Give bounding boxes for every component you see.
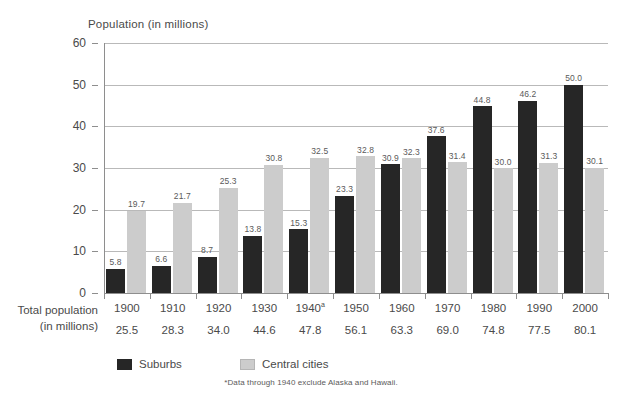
legend-label: Central cities xyxy=(262,358,328,370)
y-tick-label-0: 0 xyxy=(79,286,86,300)
total-population-2000: 80.1 xyxy=(574,324,596,336)
bar-suburbs-1990 xyxy=(518,101,537,294)
bar-suburbs-1940 xyxy=(289,229,308,293)
bar-cities-1920 xyxy=(219,188,238,293)
bar-suburbs-1980 xyxy=(473,106,492,293)
total-population-1930: 44.6 xyxy=(253,324,275,336)
x-tick xyxy=(608,293,609,299)
bar-value-label: 37.6 xyxy=(428,125,445,135)
y-tick-10 xyxy=(92,251,98,252)
x-tick xyxy=(333,293,334,299)
y-tick-label-60: 60 xyxy=(73,36,86,50)
totals-label-line1: Total population xyxy=(0,302,98,318)
bar-cities-2000 xyxy=(585,168,604,293)
bar-value-label: 13.8 xyxy=(244,224,261,234)
y-tick-label-10: 10 xyxy=(73,244,86,258)
x-tick xyxy=(287,293,288,299)
total-population-1920: 34.0 xyxy=(207,324,229,336)
bar-cities-1910 xyxy=(173,203,192,293)
x-axis-label-1970: 1970 xyxy=(435,302,461,314)
bar-value-label: 46.2 xyxy=(519,89,536,99)
total-population-1980: 74.8 xyxy=(482,324,504,336)
legend-item-central-cities: Central cities xyxy=(240,358,328,370)
x-axis-label-1960: 1960 xyxy=(389,302,415,314)
bar-groups: 5.819.76.621.78.725.313.830.815.332.523.… xyxy=(104,43,608,293)
bar-suburbs-1910 xyxy=(152,266,171,294)
x-tick xyxy=(425,293,426,299)
bar-group: 13.830.8 xyxy=(241,43,287,293)
bar-cities-1900 xyxy=(127,211,146,293)
bar-suburbs-1920 xyxy=(198,257,217,293)
y-axis: 0102030405060 xyxy=(0,43,98,293)
bar-value-label: 25.3 xyxy=(220,176,237,186)
bar-group: 46.231.3 xyxy=(516,43,562,293)
bar-value-label: 5.8 xyxy=(109,257,121,267)
total-population-1960: 63.3 xyxy=(391,324,413,336)
bar-suburbs-1970 xyxy=(427,136,446,293)
x-tick xyxy=(104,293,105,299)
bar-cities-1970 xyxy=(448,162,467,293)
x-axis-label-1990: 1990 xyxy=(526,302,552,314)
bar-cities-1990 xyxy=(539,163,558,293)
bar-value-label: 32.5 xyxy=(311,146,328,156)
x-tick xyxy=(379,293,380,299)
bar-group: 37.631.4 xyxy=(425,43,471,293)
footnote: *Data through 1940 exclude Alaska and Ha… xyxy=(0,378,622,387)
chart-title: Population (in millions) xyxy=(88,18,209,30)
x-axis-label-1900: 1900 xyxy=(114,302,140,314)
y-tick-label-40: 40 xyxy=(73,119,86,133)
x-axis-label-1940: 1940a xyxy=(295,302,325,314)
bar-value-label: 19.7 xyxy=(128,199,145,209)
x-tick xyxy=(471,293,472,299)
x-axis-line xyxy=(104,293,608,294)
bar-group: 8.725.3 xyxy=(196,43,242,293)
bar-value-label: 31.3 xyxy=(540,151,557,161)
x-axis-label-1980: 1980 xyxy=(481,302,507,314)
totals-label-line2: (in millions) xyxy=(0,318,98,334)
bar-suburbs-2000 xyxy=(564,85,583,293)
bar-value-label: 23.3 xyxy=(336,184,353,194)
bar-value-label: 21.7 xyxy=(174,191,191,201)
population-bar-chart: Population (in millions) 0102030405060 5… xyxy=(0,0,622,396)
bar-suburbs-1950 xyxy=(335,196,354,293)
bar-value-label: 44.8 xyxy=(474,95,491,105)
y-tick-0 xyxy=(92,293,98,294)
y-tick-label-20: 20 xyxy=(73,203,86,217)
y-tick-label-50: 50 xyxy=(73,78,86,92)
bar-value-label: 32.3 xyxy=(403,147,420,157)
y-tick-40 xyxy=(92,126,98,127)
bar-group: 44.830.0 xyxy=(471,43,517,293)
bar-value-label: 31.4 xyxy=(449,151,466,161)
legend-swatch-icon xyxy=(117,359,132,370)
bar-cities-1950 xyxy=(356,156,375,293)
bar-value-label: 6.6 xyxy=(155,254,167,264)
totals-row-label: Total population (in millions) xyxy=(0,302,98,334)
bar-value-label: 50.0 xyxy=(565,73,582,83)
bar-value-label: 15.3 xyxy=(290,218,307,228)
x-tick xyxy=(562,293,563,299)
bar-value-label: 8.7 xyxy=(201,245,213,255)
x-axis-label-1950: 1950 xyxy=(343,302,369,314)
x-tick xyxy=(150,293,151,299)
bar-suburbs-1960 xyxy=(381,164,400,293)
x-axis-label-2000: 2000 xyxy=(572,302,598,314)
y-tick-label-30: 30 xyxy=(73,161,86,175)
legend-item-suburbs: Suburbs xyxy=(117,358,182,370)
bar-suburbs-1900 xyxy=(106,269,125,293)
bar-value-label: 30.9 xyxy=(382,153,399,163)
total-population-1900: 25.5 xyxy=(116,324,138,336)
bar-suburbs-1930 xyxy=(243,236,262,294)
total-population-1910: 28.3 xyxy=(162,324,184,336)
bar-group: 15.332.5 xyxy=(287,43,333,293)
bar-group: 30.932.3 xyxy=(379,43,425,293)
x-tick xyxy=(196,293,197,299)
total-population-1990: 77.5 xyxy=(528,324,550,336)
y-tick-20 xyxy=(92,210,98,211)
y-tick-30 xyxy=(92,168,98,169)
total-population-1940: 47.8 xyxy=(299,324,321,336)
bar-group: 5.819.7 xyxy=(104,43,150,293)
total-population-1950: 56.1 xyxy=(345,324,367,336)
bar-group: 6.621.7 xyxy=(150,43,196,293)
x-tick xyxy=(241,293,242,299)
total-population-1970: 69.0 xyxy=(436,324,458,336)
